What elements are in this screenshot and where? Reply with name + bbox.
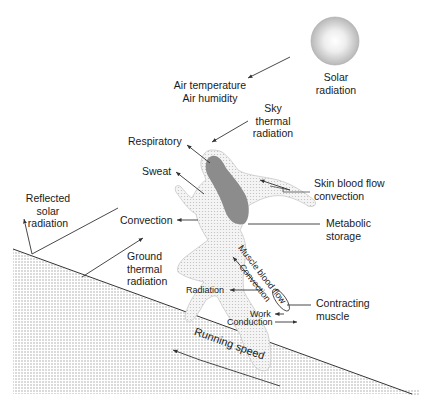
sweat-label: Sweat <box>142 165 171 178</box>
respiratory-label: Respiratory <box>128 135 182 148</box>
label-line: Skin blood flow <box>314 177 385 190</box>
label-line: Solar <box>312 71 360 84</box>
label-line: thermal <box>127 263 167 276</box>
solar-arrow <box>248 57 290 78</box>
sky-thermal-radiation-label: Sky thermal radiation <box>248 102 298 140</box>
convection-label: Convection <box>120 214 173 227</box>
radiation-label: Radiation <box>186 285 224 295</box>
label-line: muscle <box>316 310 370 323</box>
label-line: Contracting <box>316 297 370 310</box>
contracting-muscle-label: Contracting muscle <box>316 297 370 322</box>
metabolic-storage-label: Metabolic storage <box>326 217 371 242</box>
label-line: Air temperature <box>160 79 260 92</box>
label-line: radiation <box>127 275 167 288</box>
label-line: Metabolic <box>326 217 371 230</box>
label-line: radiation <box>22 217 74 230</box>
label-line: storage <box>326 230 371 243</box>
sun-icon <box>311 17 359 65</box>
air-conditions-label: Air temperature Air humidity <box>160 79 260 104</box>
ground-thermal-radiation-label: Ground thermal radiation <box>127 250 167 288</box>
label-line: Air humidity <box>160 92 260 105</box>
thermoregulation-diagram: Solar radiation Air temperature Air humi… <box>0 0 421 404</box>
label-line: Ground <box>127 250 167 263</box>
conduction-label: Conduction <box>227 317 273 327</box>
label-line: radiation <box>248 127 298 140</box>
skin-blood-flow-label: Skin blood flow convection <box>314 177 385 202</box>
label-line: thermal <box>248 115 298 128</box>
label-line: convection <box>314 190 385 203</box>
reflected-solar-radiation-label: Reflected solar radiation <box>22 192 74 230</box>
solar-radiation-label: Solar radiation <box>312 71 360 96</box>
label-line: solar <box>22 205 74 218</box>
label-line: Reflected <box>22 192 74 205</box>
label-line: Sky <box>248 102 298 115</box>
label-line: radiation <box>312 84 360 97</box>
sky-thermal-arrow <box>212 121 248 142</box>
